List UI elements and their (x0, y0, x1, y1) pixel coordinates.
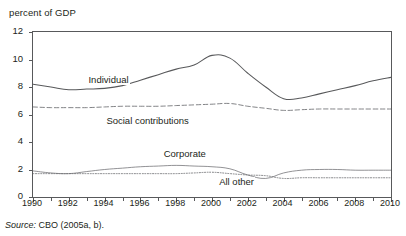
series-line-social-contributions (33, 103, 391, 110)
source-note-prefix: Source: (5, 220, 36, 230)
y-axis-tick (29, 32, 33, 33)
x-axis-tick-label: 1996 (129, 199, 149, 208)
series-label-social-contributions: Social contributions (105, 116, 189, 126)
x-axis-tick-label: 1994 (94, 199, 114, 208)
x-axis-tick-label: 2010 (380, 199, 400, 208)
x-axis-tick-label: 1992 (58, 199, 78, 208)
x-axis-tick-label: 2002 (237, 199, 257, 208)
series-label-corporate: Corporate (163, 149, 207, 159)
y-axis-tick-label: 6 (18, 109, 23, 119)
y-axis-tick (29, 142, 33, 143)
x-axis-tick-label: 2006 (308, 199, 328, 208)
x-axis-tick-label: 2000 (201, 199, 221, 208)
x-axis-tick-labels: 1990199219941996199820002002200420062008… (0, 199, 406, 213)
x-axis-tick-label: 2004 (273, 199, 293, 208)
x-axis-tick-label: 1990 (22, 199, 42, 208)
x-axis-tick-label: 1998 (165, 199, 185, 208)
series-label-individual: Individual (87, 75, 129, 85)
plot-series-svg (33, 32, 391, 197)
y-axis-tick-label: 4 (18, 136, 23, 146)
y-axis-tick (29, 87, 33, 88)
cropped-title-remnant: · (0, 0, 406, 5)
y-axis-tick (29, 60, 33, 61)
y-axis-tick-label: 2 (18, 164, 23, 174)
plot-area (32, 31, 392, 198)
series-line-corporate (33, 165, 391, 178)
y-axis-tick-label: 8 (18, 81, 23, 91)
series-line-all-other (33, 172, 391, 178)
x-axis-tick-label: 2008 (344, 199, 364, 208)
figure-tax-revenue-percent-gdp: · percent of GDP 024681012 1990199219941… (0, 0, 406, 236)
y-axis-tick-label: 10 (12, 54, 23, 64)
y-axis-tick (29, 115, 33, 116)
series-label-all-other: All other (218, 177, 255, 187)
y-axis-tick (29, 170, 33, 171)
y-axis-tick-label: 12 (12, 26, 23, 36)
source-note-text: CBO (2005a, b). (36, 220, 104, 230)
source-note: Source: CBO (2005a, b). (5, 220, 104, 230)
